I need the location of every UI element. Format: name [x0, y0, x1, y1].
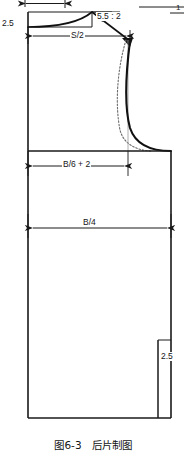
label-shoulder-slope: 5.5 : 2: [96, 12, 122, 21]
label-reference-one: 1: [176, 4, 180, 12]
neck-width-dimension-arrow: [25, 0, 65, 8]
half-bust-dimension: [28, 214, 171, 238]
label-shoulder-width: S/2: [70, 31, 85, 40]
technical-drawing-figure: 2.5 5.5 : 2 1 S/2 B/6 + 2 B/4 2.5 图6-3 后…: [0, 0, 186, 476]
bodice-outline: [28, 12, 171, 418]
label-half-bust-width: B/4: [82, 218, 97, 227]
figure-caption: 图6-3 后片制图: [0, 437, 186, 452]
label-chest-width: B/6 + 2: [62, 160, 91, 169]
label-side-slit: 2.5: [160, 352, 174, 361]
back-neckline-curve: [28, 12, 92, 27]
armhole-curve: [126, 41, 171, 151]
armhole-guide-dotted: [117, 40, 152, 151]
pattern-drawing-canvas: [0, 0, 186, 476]
label-back-neck-drop: 2.5: [1, 19, 15, 28]
chest-line: [28, 151, 171, 176]
shoulder-point-marker: [122, 38, 133, 47]
